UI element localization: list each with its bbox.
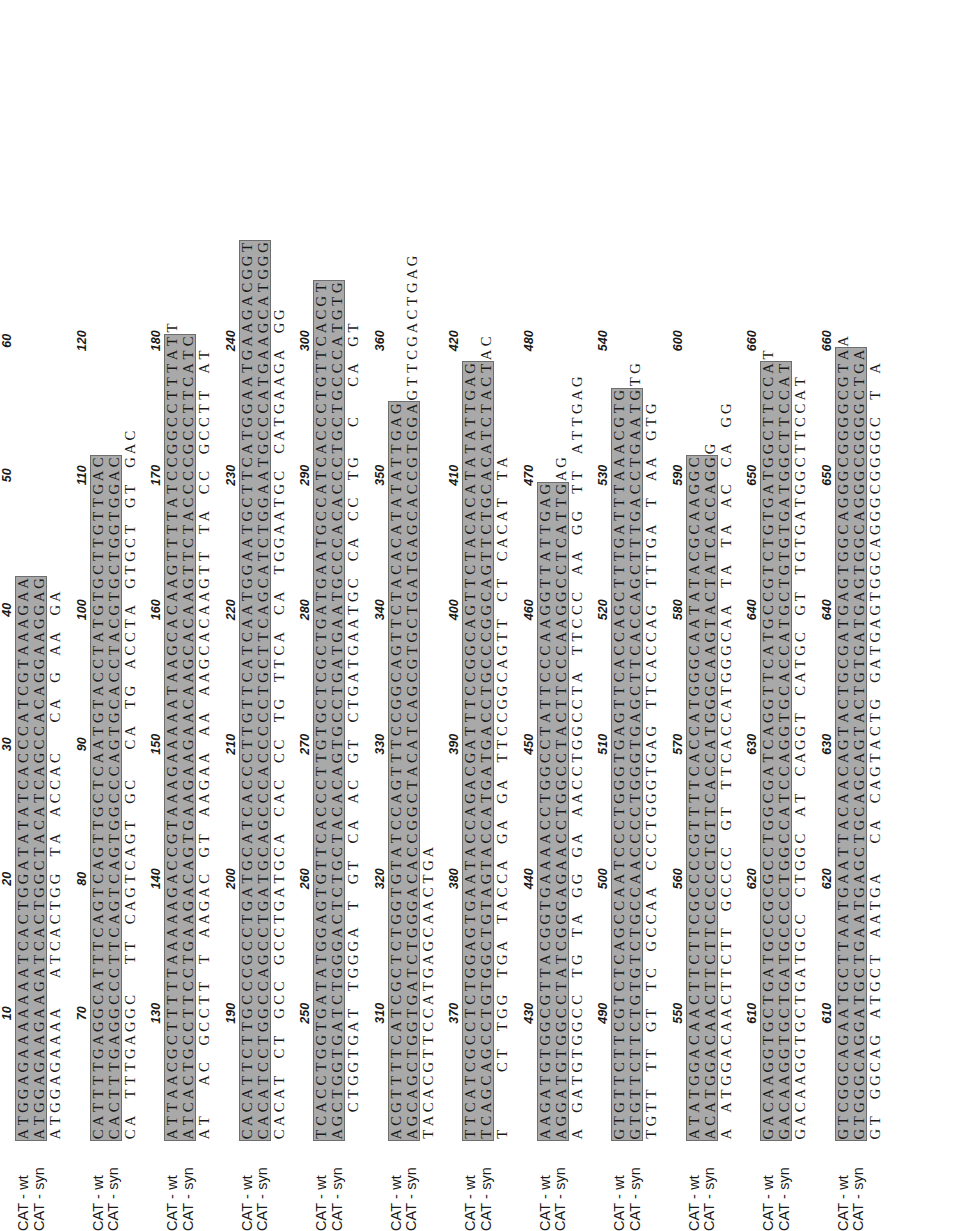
- base-letter: C: [494, 886, 510, 899]
- base-letter: C: [686, 872, 702, 885]
- ruler-tick: 660: [820, 330, 834, 351]
- base-letter: A: [345, 536, 361, 549]
- base-letter: [31, 429, 47, 442]
- sequence-area: 130140150160170180ATTAACGCTTTTTAAAAAGACC…: [149, 0, 224, 1141]
- base-letter: G: [122, 886, 138, 899]
- base-letter: G: [345, 1074, 361, 1087]
- sequence-area: 310320330340350360ACGTTTTCATCGCTCTGGTGTA…: [373, 0, 448, 1141]
- base-letter: [569, 496, 585, 509]
- ruler-tick: 30: [0, 737, 14, 751]
- base-letter: C: [180, 1034, 196, 1047]
- base-letter: T: [627, 1007, 643, 1020]
- base-letter: A: [420, 899, 436, 912]
- base-letter: A: [47, 644, 63, 657]
- base-letter: C: [255, 1101, 271, 1114]
- base-letter: A: [239, 442, 255, 455]
- base-letter: A: [702, 1007, 718, 1020]
- base-letter: C: [537, 751, 553, 764]
- base-letter: T: [180, 402, 196, 415]
- base-letter: A: [851, 751, 867, 764]
- base-letter: [718, 1114, 734, 1127]
- base-letter: C: [643, 926, 659, 939]
- base-letter: T: [345, 698, 361, 711]
- base-letter: G: [313, 899, 329, 912]
- ruler-tick: 520: [596, 599, 610, 620]
- base-letter: [494, 442, 510, 455]
- base-letter: C: [271, 738, 287, 751]
- base-letter: T: [792, 375, 808, 388]
- base-letter: [345, 886, 361, 899]
- base-letter: A: [627, 415, 643, 428]
- base-letter: G: [569, 845, 585, 858]
- base-letter: T: [537, 563, 553, 576]
- base-letter: C: [627, 819, 643, 832]
- base-letter: G: [569, 953, 585, 966]
- base-letter: [106, 415, 122, 428]
- base-letter: G: [329, 630, 345, 643]
- base-letter: C: [627, 805, 643, 818]
- base-letter: A: [702, 1020, 718, 1033]
- base-letter: [420, 254, 436, 267]
- base-letter: G: [835, 671, 851, 684]
- base-letter: G: [867, 429, 883, 442]
- base-letter: A: [31, 1047, 47, 1060]
- base-letter: C: [494, 523, 510, 536]
- base-letter: T: [537, 792, 553, 805]
- base-letter: C: [329, 778, 345, 791]
- base-letter: G: [494, 953, 510, 966]
- base-letter: C: [122, 536, 138, 549]
- base-letter: A: [164, 590, 180, 603]
- base-letter: C: [718, 751, 734, 764]
- ruler-tick: 640: [745, 599, 759, 620]
- base-letter: A: [15, 590, 31, 603]
- base-letter: T: [122, 698, 138, 711]
- base-letter: T: [478, 1007, 494, 1020]
- base-letter: G: [329, 751, 345, 764]
- base-letter: [569, 657, 585, 670]
- track-label-syn: CAT - syn: [553, 1141, 569, 1231]
- base-letter: [792, 617, 808, 630]
- base-letter: C: [345, 711, 361, 724]
- base-letter: G: [494, 644, 510, 657]
- base-letter: C: [537, 738, 553, 751]
- base-letter: [345, 765, 361, 778]
- base-letter: [643, 442, 659, 455]
- base-letter: T: [462, 698, 478, 711]
- base-letter: C: [835, 657, 851, 670]
- base-letter: G: [420, 1060, 436, 1073]
- base-letter: G: [851, 1087, 867, 1100]
- base-letter: T: [867, 590, 883, 603]
- base-letter: G: [760, 1047, 776, 1060]
- base-letter: [47, 362, 63, 375]
- base-letter: T: [388, 1007, 404, 1020]
- position-ruler: 610620630640650660: [745, 0, 760, 1141]
- base-letter: [718, 913, 734, 926]
- base-letter: T: [388, 1087, 404, 1100]
- base-letter: A: [15, 630, 31, 643]
- base-letter: A: [611, 523, 627, 536]
- base-letter: T: [404, 375, 420, 388]
- base-letter: T: [792, 1034, 808, 1047]
- base-letter: C: [164, 469, 180, 482]
- base-letter: T: [90, 617, 106, 630]
- ruler-tick: 330: [373, 734, 387, 755]
- ruler-tick: 460: [522, 599, 536, 620]
- base-letter: G: [31, 980, 47, 993]
- base-letter: [15, 536, 31, 549]
- base-letter: C: [420, 1020, 436, 1033]
- base-letter: A: [164, 953, 180, 966]
- base-letter: [643, 335, 659, 348]
- base-letter: [271, 268, 287, 281]
- base-letter: G: [122, 1020, 138, 1033]
- base-letter: T: [478, 980, 494, 993]
- base-letter: [31, 362, 47, 375]
- base-letter: T: [611, 993, 627, 1006]
- ruler-tick: 20: [0, 872, 14, 886]
- ruler-tick: 650: [820, 465, 834, 486]
- base-letter: C: [404, 617, 420, 630]
- base-letter: [15, 348, 31, 361]
- base-letter: T: [686, 792, 702, 805]
- base-letter: C: [776, 926, 792, 939]
- base-letter: T: [569, 483, 585, 496]
- base-letter: [494, 980, 510, 993]
